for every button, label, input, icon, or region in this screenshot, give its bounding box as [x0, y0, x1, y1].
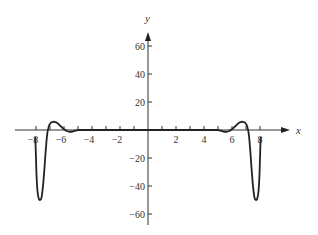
- chart: x y −8−6−4−22468 −60−40−20204060: [0, 0, 318, 235]
- x-axis-arrow-icon: [281, 127, 290, 133]
- x-tick-label: −6: [56, 134, 67, 145]
- x-tick-label: −8: [28, 134, 39, 145]
- y-axis-arrow-icon: [145, 32, 151, 41]
- x-tick-label: 4: [202, 134, 207, 145]
- y-axis-label: y: [144, 12, 150, 24]
- x-tick-label: 6: [230, 134, 235, 145]
- y-tick-label: 60: [135, 41, 145, 52]
- x-axis-label: x: [295, 124, 301, 136]
- x-tick-label: 2: [174, 134, 179, 145]
- y-tick-label: −40: [129, 181, 145, 192]
- y-tick-label: −60: [129, 209, 145, 220]
- x-tick-label: −2: [112, 134, 123, 145]
- x-tick-label: −4: [84, 134, 95, 145]
- y-tick-label: 20: [135, 97, 145, 108]
- y-tick-label: −20: [129, 153, 145, 164]
- y-tick-label: 40: [135, 69, 145, 80]
